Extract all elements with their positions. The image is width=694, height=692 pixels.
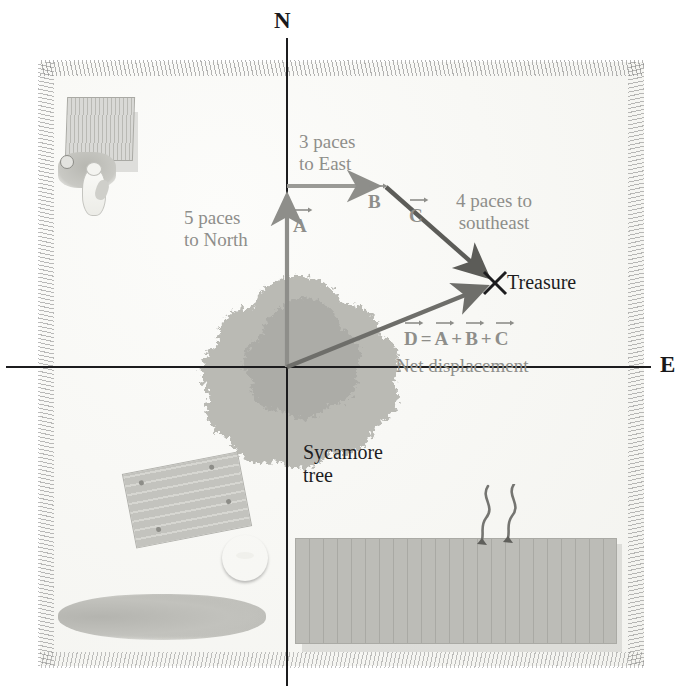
compass-east-label: E <box>660 352 676 378</box>
vector-b-description: 3 paces to East <box>299 131 355 175</box>
vector-b-label: B <box>368 191 381 213</box>
net-displacement-label: Net displacement <box>396 355 528 377</box>
vector-c-description: 4 paces to southeast <box>456 190 532 234</box>
equation-lhs: D <box>404 328 418 349</box>
equation-term-b: B <box>465 328 478 349</box>
equation-plus-2: + <box>478 328 495 349</box>
east-west-axis <box>6 366 651 368</box>
vector-arrow-overbar-icon <box>368 182 388 189</box>
vector-arrow-overbar-icon <box>495 319 515 326</box>
boulder-highlight <box>236 552 254 559</box>
vector-a-description: 5 paces to North <box>184 207 248 251</box>
vector-sum-equation: D = A + B + C <box>404 328 508 350</box>
treasure-label: Treasure <box>507 271 576 294</box>
dock-peg <box>138 480 144 486</box>
vector-arrow-overbar-icon <box>435 319 455 326</box>
vector-arrow-overbar-icon <box>465 319 485 326</box>
building-knob-icon <box>60 155 74 169</box>
equation-equals: = <box>418 328 435 349</box>
north-south-axis <box>286 38 288 686</box>
garden-field-icon <box>295 538 617 644</box>
compass-north-label: N <box>274 8 291 34</box>
dock-peg <box>226 499 232 505</box>
vector-a-letter: A <box>293 215 307 236</box>
sycamore-tree-label: Sycamore tree <box>303 441 383 487</box>
equation-term-c: C <box>495 328 509 349</box>
vector-arrow-overbar-icon <box>293 206 313 213</box>
dock-peg <box>156 527 162 533</box>
stream-path-icon <box>470 484 550 554</box>
vector-c-letter: C <box>409 205 423 226</box>
hedge-icon <box>58 594 266 640</box>
vector-arrow-overbar-icon <box>404 319 424 326</box>
vector-c-label: C <box>409 205 423 227</box>
treasure-map-figure: N E <box>0 0 694 692</box>
vector-b-letter: B <box>368 191 381 212</box>
person-head-icon <box>86 162 102 176</box>
equation-plus-1: + <box>448 328 465 349</box>
vector-arrow-overbar-icon <box>409 196 429 203</box>
vector-a-label: A <box>293 215 307 237</box>
equation-term-a: A <box>435 328 449 349</box>
